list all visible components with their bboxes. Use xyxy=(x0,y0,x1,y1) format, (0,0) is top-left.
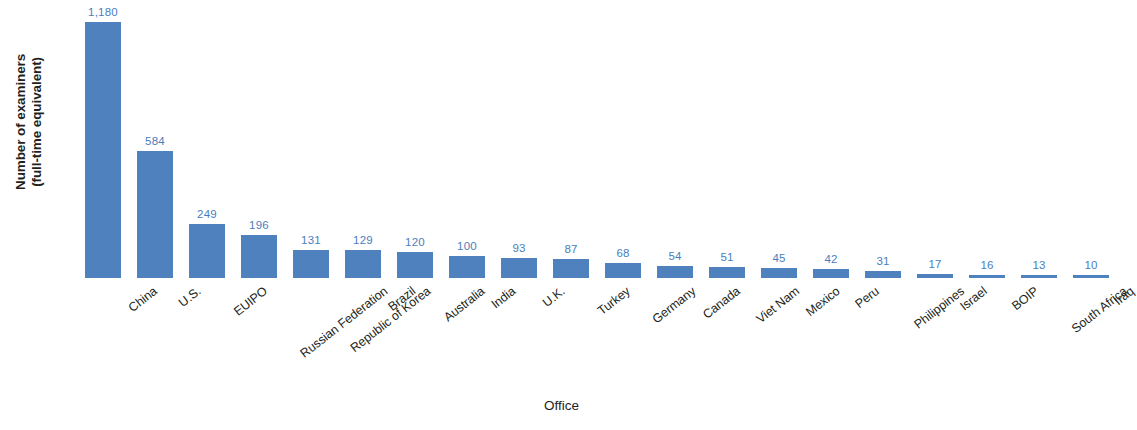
bar-group: 131 xyxy=(285,0,337,278)
bar[interactable] xyxy=(865,271,901,278)
bar-group: 51 xyxy=(701,0,753,278)
y-axis-title: Number of examiners (full-time equivalen… xyxy=(13,7,45,237)
bar-value-label: 45 xyxy=(753,252,805,264)
bar-group: 68 xyxy=(597,0,649,278)
x-axis-tick-label: U.S. xyxy=(176,284,203,310)
bar-group: 100 xyxy=(441,0,493,278)
bar[interactable] xyxy=(137,151,173,278)
bar[interactable] xyxy=(501,258,537,278)
bar-group: 45 xyxy=(753,0,805,278)
bar-value-label: 17 xyxy=(909,258,961,270)
x-axis-tick-label: Australia xyxy=(441,284,487,324)
bar-group: 31 xyxy=(857,0,909,278)
bar-group: 196 xyxy=(233,0,285,278)
bar[interactable] xyxy=(293,250,329,278)
bar[interactable] xyxy=(397,252,433,278)
x-axis-tick-label: Turkey xyxy=(595,284,633,318)
bar-value-label: 249 xyxy=(181,208,233,220)
bar[interactable] xyxy=(761,268,797,278)
bar-value-label: 87 xyxy=(545,243,597,255)
bar-group: 1,180 xyxy=(77,0,129,278)
bar-value-label: 1,180 xyxy=(77,6,129,18)
bar-group: 42 xyxy=(805,0,857,278)
bar-value-label: 584 xyxy=(129,135,181,147)
x-axis-tick-label: Philippines xyxy=(912,284,967,332)
bar[interactable] xyxy=(189,224,225,278)
bar-value-label: 10 xyxy=(1065,259,1117,271)
x-axis-tick-label: India xyxy=(489,284,519,311)
x-axis-tick-label: Canada xyxy=(700,284,743,322)
bar-value-label: 129 xyxy=(337,234,389,246)
bar[interactable] xyxy=(345,250,381,278)
plot-area: 1,18058424919613112912010093876854514542… xyxy=(58,0,1118,278)
bar[interactable] xyxy=(657,266,693,278)
bar-value-label: 16 xyxy=(961,259,1013,271)
bar-value-label: 68 xyxy=(597,247,649,259)
bar[interactable] xyxy=(553,259,589,278)
x-axis-tick-label: BOIP xyxy=(1009,284,1041,313)
bar-group: 54 xyxy=(649,0,701,278)
bar[interactable] xyxy=(449,256,485,278)
x-axis-tick-label: Viet Nam xyxy=(754,284,802,326)
bar-group: 17 xyxy=(909,0,961,278)
bar-group: 10 xyxy=(1065,0,1117,278)
x-axis-tick-label: U.K. xyxy=(540,284,567,310)
x-axis-title: Office xyxy=(0,398,1123,413)
bar-value-label: 31 xyxy=(857,255,909,267)
bar-value-label: 51 xyxy=(701,251,753,263)
bar-group: 16 xyxy=(961,0,1013,278)
bar-value-label: 131 xyxy=(285,234,337,246)
bar-group: 249 xyxy=(181,0,233,278)
bar-group: 584 xyxy=(129,0,181,278)
bar-value-label: 13 xyxy=(1013,259,1065,271)
bar[interactable] xyxy=(605,263,641,278)
bar[interactable] xyxy=(813,269,849,278)
bar-value-label: 42 xyxy=(805,253,857,265)
bar[interactable] xyxy=(709,267,745,278)
bar-value-label: 100 xyxy=(441,240,493,252)
x-axis-tick-label: EUIPO xyxy=(231,284,270,319)
x-axis-tick-label: Peru xyxy=(853,284,882,311)
bar-group: 13 xyxy=(1013,0,1065,278)
bar[interactable] xyxy=(85,22,121,278)
x-axis-tick-label: Mexico xyxy=(803,284,842,319)
x-axis-tick-labels: ChinaU.S.EUIPORussian FederationRepublic… xyxy=(58,278,1118,388)
bar-group: 120 xyxy=(389,0,441,278)
x-axis-tick-label: China xyxy=(126,284,160,315)
bar-value-label: 93 xyxy=(493,242,545,254)
bar[interactable] xyxy=(241,235,277,278)
x-axis-tick-label: Germany xyxy=(650,284,699,326)
bar-value-label: 54 xyxy=(649,250,701,262)
bar-group: 129 xyxy=(337,0,389,278)
bar-value-label: 196 xyxy=(233,219,285,231)
bar-value-label: 120 xyxy=(389,236,441,248)
bar-group: 87 xyxy=(545,0,597,278)
bar-group: 93 xyxy=(493,0,545,278)
